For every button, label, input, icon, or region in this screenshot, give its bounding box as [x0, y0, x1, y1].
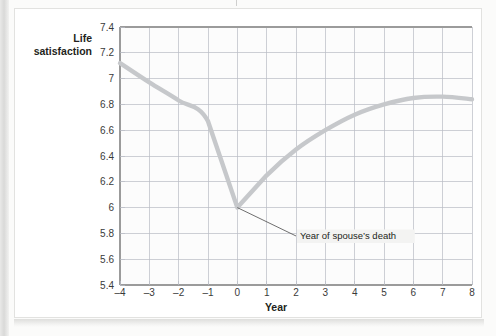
x-tick-label: 5 — [381, 287, 387, 298]
x-tick-label: 2 — [293, 287, 299, 298]
annotation-label: Year of spouse’s death — [300, 230, 396, 241]
y-tick-label: 6.6 — [100, 125, 114, 136]
y-tick-labels: 5.45.65.866.26.46.66.877.27.4 — [100, 22, 114, 291]
x-tick-label: –4 — [114, 287, 126, 298]
y-tick-label: 7.4 — [100, 22, 114, 33]
y-tick-label: 6.4 — [100, 151, 114, 162]
x-tick-label: –3 — [144, 287, 156, 298]
x-tick-label: 8 — [469, 287, 475, 298]
y-tick-label: 5.8 — [100, 228, 114, 239]
y-tick-label: 6.8 — [100, 99, 114, 110]
y-tick-label: 5.4 — [100, 280, 114, 291]
x-tick-label: 4 — [352, 287, 358, 298]
x-tick-label: –2 — [173, 287, 185, 298]
y-tick-label: 7.2 — [100, 47, 114, 58]
line-chart: 5.45.65.866.26.46.66.877.27.4 –4–3–2–101… — [0, 0, 496, 336]
y-tick-label: 5.6 — [100, 254, 114, 265]
chart-plot-area: 5.45.65.866.26.46.66.877.27.4 –4–3–2–101… — [0, 0, 496, 336]
x-tick-label: 7 — [440, 287, 446, 298]
x-tick-labels: –4–3–2–1012345678 — [114, 287, 475, 298]
y-tick-label: 6 — [108, 202, 114, 213]
x-tick-label: 0 — [235, 287, 241, 298]
y-tick-label: 6.2 — [100, 176, 114, 187]
x-tick-label: –1 — [202, 287, 214, 298]
x-tick-label: 3 — [323, 287, 329, 298]
y-tick-label: 7 — [108, 73, 114, 84]
x-tick-label: 1 — [264, 287, 270, 298]
x-tick-label: 6 — [411, 287, 417, 298]
